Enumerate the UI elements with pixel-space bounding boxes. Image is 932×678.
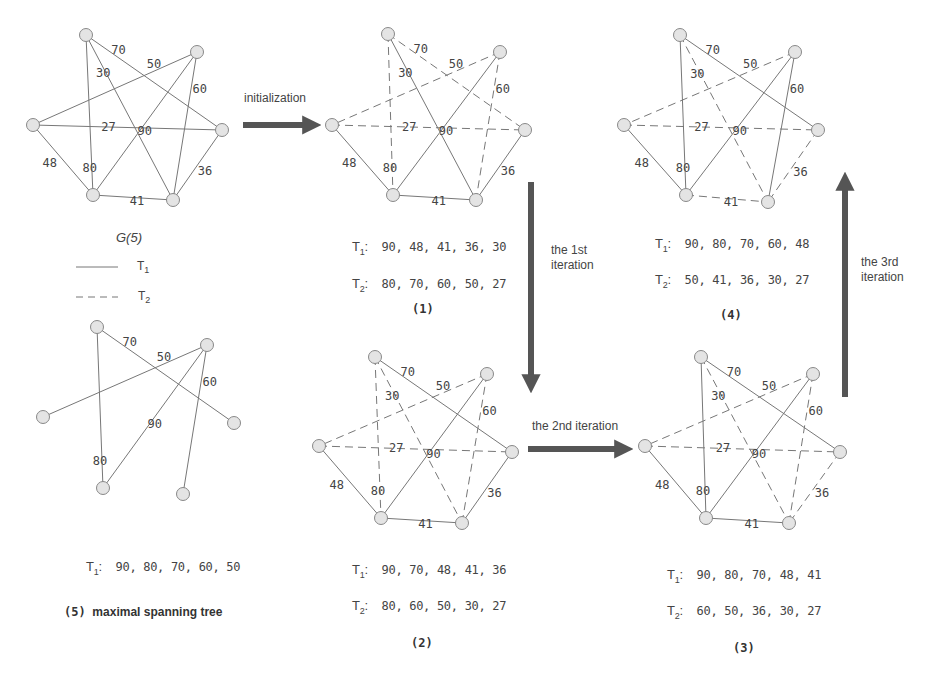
edge-weight-label: 27 [389, 441, 403, 455]
node-B [807, 368, 820, 381]
edge-weight-label: 30 [96, 66, 110, 80]
g4-t1-list: T1: 90, 80, 70, 60, 48 [655, 236, 809, 254]
edge-weight-label: 48 [330, 478, 344, 492]
iteration-3-label-line1: the 3rd [861, 255, 904, 270]
g3-t2-list: T2: 60, 50, 36, 30, 27 [667, 603, 821, 621]
iteration-1-label-line1: the 1st [551, 243, 594, 258]
edge-48-solid [319, 446, 381, 518]
legend-t2-sub: 2 [145, 295, 150, 305]
edge-weight-label: 70 [706, 43, 720, 57]
edge-weight-label: 70 [111, 43, 125, 57]
edge-weight-label: 41 [724, 195, 738, 209]
node-D [216, 124, 229, 137]
edge-weight-label: 36 [487, 486, 501, 500]
node-F [762, 196, 775, 209]
iteration-3-label: the 3rd iteration [861, 255, 904, 285]
g2-t2-values: 80, 60, 50, 30, 27 [382, 599, 507, 613]
edge-weight-label: 27 [694, 120, 708, 134]
edge-weight-label: 70 [122, 335, 136, 349]
node-F [456, 517, 469, 530]
g1-t1-values: 90, 48, 41, 36, 30 [382, 240, 507, 254]
node-B [494, 46, 507, 59]
graph-g3: 90807048416050363027 [639, 351, 847, 531]
edge-weight-label: 50 [436, 379, 450, 393]
edge-weight-label: 36 [198, 164, 212, 178]
edge-weight-label: 80 [371, 484, 385, 498]
node-D [228, 417, 241, 430]
node-D [834, 446, 847, 459]
iteration-2-label: the 2nd iteration [532, 419, 618, 434]
iteration-1-label-line2: iteration [551, 258, 594, 273]
node-E [680, 189, 693, 202]
edge-weight-label: 30 [385, 389, 399, 403]
g5-caption-text: maximal spanning tree [92, 605, 222, 619]
edge-weight-label: 60 [808, 404, 822, 418]
edge-weight-label: 70 [727, 365, 741, 379]
node-D [506, 446, 519, 459]
node-B [201, 339, 214, 352]
iteration-1-label: the 1st iteration [551, 243, 594, 273]
edge-weight-label: 90 [137, 124, 151, 138]
g5-caption: (5) maximal spanning tree [64, 605, 222, 619]
node-C [326, 119, 339, 132]
g4-t2-list: T2: 50, 41, 36, 30, 27 [655, 272, 809, 290]
edge-weight-label: 30 [711, 389, 725, 403]
node-F [783, 517, 796, 530]
g2-t1-values: 90, 70, 48, 41, 36 [382, 563, 507, 577]
node-C [618, 119, 631, 132]
g5-t1-values: 90, 80, 70, 60, 50 [116, 560, 241, 574]
edge-weight-label: 80 [83, 161, 97, 175]
node-C [639, 440, 652, 453]
node-C [37, 411, 50, 424]
node-E [97, 482, 110, 495]
edge-weight-label: 80 [696, 484, 710, 498]
g2-caption: (2) [411, 636, 433, 650]
node-A [369, 351, 382, 364]
iteration-3-label-line2: iteration [861, 270, 904, 285]
g1-t2-list: T2: 80, 70, 60, 50, 27 [352, 276, 506, 294]
edge-weight-label: 80 [383, 161, 397, 175]
edge-weight-label: 80 [93, 454, 107, 468]
edge-27-solid [33, 125, 222, 130]
node-E [387, 189, 400, 202]
edge-weight-label: 80 [676, 161, 690, 175]
edge-60-solid [173, 52, 197, 200]
edge-27-dashed [645, 446, 840, 452]
node-B [481, 368, 494, 381]
edge-weight-label: 90 [439, 124, 453, 138]
graph-g4: 90807060485041363027 [618, 29, 825, 209]
edge-60-solid [183, 345, 207, 494]
edge-60-solid [768, 52, 795, 202]
node-C [313, 440, 326, 453]
edge-weight-label: 90 [752, 447, 766, 461]
edge-weight-label: 48 [43, 156, 57, 170]
g3-t2-values: 60, 50, 36, 30, 27 [697, 604, 822, 618]
g4-t1-values: 90, 80, 70, 60, 48 [685, 237, 810, 251]
g1-caption: (1) [412, 302, 434, 316]
edge-weight-label: 48 [655, 478, 669, 492]
g2-t1-list: T1: 90, 70, 48, 41, 36 [352, 562, 506, 580]
node-F [177, 488, 190, 501]
g2-t2-list: T2: 80, 60, 50, 30, 27 [352, 598, 506, 616]
g5-t1-list: T1: 90, 80, 70, 60, 50 [86, 559, 240, 577]
node-E [87, 189, 100, 202]
edge-weight-label: 60 [202, 375, 216, 389]
node-E [375, 512, 388, 525]
g1-t1-list: T1: 90, 48, 41, 36, 30 [352, 239, 506, 257]
edge-48-solid [624, 125, 686, 195]
edge-weight-label: 90 [426, 447, 440, 461]
edge-50-solid [33, 52, 197, 125]
g5-caption-num: (5) [64, 605, 86, 619]
edge-60-dashed [789, 374, 813, 523]
edge-27-dashed [332, 125, 525, 130]
edge-27-dashed [319, 446, 512, 452]
node-F [167, 194, 180, 207]
edge-weight-label: 48 [342, 156, 356, 170]
edge-weight-label: 90 [733, 124, 747, 138]
node-A [382, 28, 395, 41]
node-A [80, 29, 93, 42]
edge-weight-label: 41 [431, 194, 445, 208]
initialization-label: initialization [244, 91, 306, 106]
edge-weight-label: 70 [400, 365, 414, 379]
g3-caption: (3) [733, 641, 755, 655]
